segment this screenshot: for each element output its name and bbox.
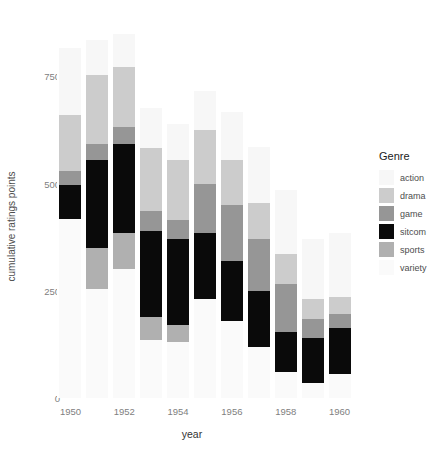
bar-1954[interactable] (167, 124, 189, 398)
bar-segment-drama[interactable] (221, 160, 243, 205)
legend-item-variety[interactable]: variety (379, 259, 439, 276)
bar-segment-variety[interactable] (329, 374, 351, 398)
bar-1960[interactable] (329, 233, 351, 399)
x-axis-title: year (0, 428, 439, 440)
bar-segment-drama[interactable] (329, 297, 351, 314)
bar-1957[interactable] (248, 147, 270, 398)
bar-segment-variety[interactable] (275, 372, 297, 398)
bar-segment-sitcom[interactable] (167, 239, 189, 325)
bar-segment-variety[interactable] (302, 383, 324, 398)
bar-segment-drama[interactable] (248, 203, 270, 239)
legend-item-action[interactable]: action (379, 169, 439, 186)
legend-title: Genre (379, 150, 439, 162)
bar-segment-sitcom[interactable] (221, 261, 243, 321)
x-tick-label: 1960 (329, 406, 350, 417)
bar-segment-drama[interactable] (302, 299, 324, 318)
bar-segment-game[interactable] (86, 144, 108, 160)
bar-segment-game[interactable] (302, 319, 324, 338)
bar-segment-game[interactable] (194, 184, 216, 233)
bar-segment-drama[interactable] (86, 75, 108, 144)
bar-segment-action[interactable] (59, 48, 81, 116)
bar-segment-action[interactable] (113, 34, 135, 66)
x-tick-label: 1950 (60, 406, 81, 417)
bar-segment-variety[interactable] (140, 340, 162, 398)
legend-swatch-sports (379, 242, 394, 257)
y-tick-label: 0 (20, 393, 60, 404)
plot-panel (57, 12, 353, 398)
x-tick-label: 1952 (114, 406, 135, 417)
legend-swatch-action (379, 170, 394, 185)
bar-segment-drama[interactable] (167, 160, 189, 220)
bar-segment-variety[interactable] (113, 269, 135, 398)
bar-segment-sitcom[interactable] (140, 231, 162, 317)
bar-1958[interactable] (275, 190, 297, 398)
bar-segment-variety[interactable] (59, 219, 81, 398)
bar-segment-action[interactable] (221, 112, 243, 160)
bar-segment-game[interactable] (329, 314, 351, 328)
legend-label-drama: drama (400, 191, 426, 201)
bar-segment-action[interactable] (140, 108, 162, 149)
bar-segment-drama[interactable] (140, 148, 162, 210)
bar-segment-action[interactable] (275, 190, 297, 254)
bar-segment-sitcom[interactable] (113, 144, 135, 233)
bar-segment-drama[interactable] (59, 115, 81, 171)
x-tick-label: 1956 (221, 406, 242, 417)
bar-segment-variety[interactable] (167, 342, 189, 398)
legend-label-action: action (400, 173, 424, 183)
x-axis-title-text: year (182, 428, 202, 440)
bar-1950[interactable] (59, 48, 81, 398)
bar-segment-drama[interactable] (275, 254, 297, 284)
bar-segment-game[interactable] (59, 171, 81, 185)
bar-segment-action[interactable] (194, 91, 216, 130)
bar-segment-drama[interactable] (113, 67, 135, 127)
bar-segment-variety[interactable] (86, 289, 108, 398)
bar-segment-sitcom[interactable] (194, 233, 216, 299)
bar-segment-variety[interactable] (221, 321, 243, 398)
bar-segment-sports[interactable] (86, 248, 108, 289)
bar-segment-game[interactable] (221, 205, 243, 261)
bar-1951[interactable] (86, 40, 108, 398)
bar-segment-game[interactable] (248, 239, 270, 290)
bar-segment-sports[interactable] (140, 317, 162, 341)
legend-item-game[interactable]: game (379, 205, 439, 222)
legend-item-sports[interactable]: sports (379, 241, 439, 258)
legend-swatch-sitcom (379, 224, 394, 239)
legend-item-sitcom[interactable]: sitcom (379, 223, 439, 240)
y-axis-title-text: cumulative ratings points (6, 171, 17, 281)
bar-segment-game[interactable] (275, 284, 297, 331)
bar-segment-drama[interactable] (194, 130, 216, 184)
bar-1959[interactable] (302, 239, 324, 398)
bar-segment-game[interactable] (113, 127, 135, 144)
bar-segment-sitcom[interactable] (248, 291, 270, 347)
bar-segment-sitcom[interactable] (59, 185, 81, 218)
legend-label-variety: variety (400, 263, 427, 273)
bar-segment-sitcom[interactable] (329, 328, 351, 374)
y-tick-label: 750 (20, 71, 60, 82)
bar-segment-sitcom[interactable] (86, 160, 108, 248)
bar-segment-game[interactable] (167, 220, 189, 239)
bar-1952[interactable] (113, 34, 135, 398)
bar-1956[interactable] (221, 112, 243, 398)
legend-swatch-game (379, 206, 394, 221)
bar-segment-sports[interactable] (167, 325, 189, 342)
legend-swatch-variety (379, 260, 394, 275)
bar-segment-variety[interactable] (248, 347, 270, 398)
bar-1955[interactable] (194, 91, 216, 398)
bar-segment-action[interactable] (329, 233, 351, 297)
bar-segment-variety[interactable] (194, 299, 216, 398)
bar-segment-sports[interactable] (113, 233, 135, 269)
bar-segment-action[interactable] (302, 239, 324, 299)
bar-segment-action[interactable] (167, 124, 189, 160)
bar-series-container (57, 12, 353, 398)
y-tick-label: 500 (20, 178, 60, 189)
bar-segment-action[interactable] (86, 40, 108, 75)
bar-segment-sitcom[interactable] (275, 332, 297, 373)
bar-1953[interactable] (140, 108, 162, 398)
legend: Genre actiondramagamesitcomsportsvariety (379, 150, 439, 277)
y-tick-label: 250 (20, 285, 60, 296)
bar-segment-action[interactable] (248, 147, 270, 203)
legend-label-sitcom: sitcom (400, 227, 426, 237)
bar-segment-game[interactable] (140, 211, 162, 231)
legend-item-drama[interactable]: drama (379, 187, 439, 204)
bar-segment-sitcom[interactable] (302, 338, 324, 383)
